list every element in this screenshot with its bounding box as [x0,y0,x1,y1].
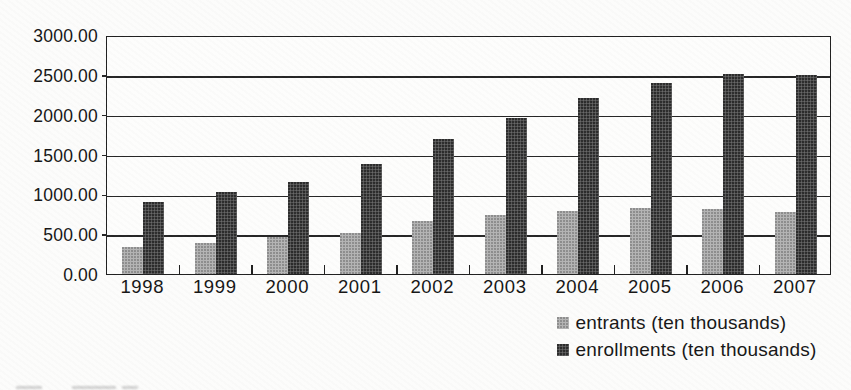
bar-entrants-2002 [412,221,433,274]
x-axis-tick [469,265,471,274]
x-tick-label-2001: 2001 [324,277,397,297]
gridline [107,156,830,158]
gridline [107,116,830,118]
y-tick-label: 3000.00 [0,27,98,45]
y-axis-tick [102,234,107,236]
legend-item: entrants (ten thousands) [557,313,816,333]
cropped-text-artifact [122,386,138,389]
y-tick-label: 2500.00 [0,67,98,85]
y-tick-label: 500.00 [0,226,98,244]
legend-item: enrollments (ten thousands) [557,340,816,360]
legend-label: entrants (ten thousands) [576,313,787,333]
x-axis-tick [396,265,398,274]
cropped-text-artifact [16,386,42,389]
x-tick-label-1999: 1999 [179,277,252,297]
bar-enrollments-1999 [216,192,237,274]
bar-entrants-2000 [267,237,288,274]
bar-entrants-2005 [630,208,651,274]
y-axis-tick [102,195,107,197]
legend-swatch-icon [557,344,569,356]
bar-enrollments-2000 [288,182,309,274]
y-axis-labels: 3000.002500.002000.001500.001000.00500.0… [0,0,100,290]
x-tick-label-2002: 2002 [396,277,469,297]
x-tick-label-2003: 2003 [469,277,542,297]
bar-enrollments-2003 [506,118,527,274]
x-axis-tick [324,265,326,274]
legend: entrants (ten thousands)enrollments (ten… [557,313,816,367]
x-tick-label-1998: 1998 [106,277,179,297]
bar-entrants-1999 [195,243,216,274]
bar-entrants-1998 [122,247,143,274]
bar-entrants-2001 [340,233,361,274]
x-axis-tick [759,265,761,274]
bar-enrollments-2007 [796,75,817,274]
bar-entrants-2007 [775,212,796,274]
x-tick-label-2004: 2004 [541,277,614,297]
x-tick-label-2007: 2007 [759,277,832,297]
bar-enrollments-2002 [433,139,454,274]
bar-enrollments-2006 [723,74,744,274]
x-tick-label-2005: 2005 [614,277,687,297]
x-axis-labels: 1998199920002001200220032004200520062007 [0,277,851,299]
cropped-text-artifact [72,386,116,389]
y-tick-label: 1500.00 [0,147,98,165]
bar-entrants-2003 [485,215,506,274]
bar-enrollments-1998 [143,202,164,274]
bar-enrollments-2004 [578,98,599,274]
y-tick-label: 1000.00 [0,186,98,204]
gridline [107,76,830,78]
y-axis-tick [102,155,107,157]
bar-chart-figure: 3000.002500.002000.001500.001000.00500.0… [0,0,851,390]
y-axis-tick [102,75,107,77]
legend-swatch-icon [557,317,569,329]
bar-enrollments-2001 [361,164,382,274]
y-axis-tick [102,115,107,117]
y-tick-label: 2000.00 [0,107,98,125]
x-axis-tick [686,265,688,274]
x-tick-label-2006: 2006 [686,277,759,297]
x-tick-label-2000: 2000 [251,277,324,297]
legend-label: enrollments (ten thousands) [576,340,817,360]
bar-entrants-2006 [702,209,723,274]
x-axis-tick [614,265,616,274]
x-axis-tick [541,265,543,274]
x-axis-tick [251,265,253,274]
bar-entrants-2004 [557,211,578,274]
plot-area [106,36,831,275]
bar-enrollments-2005 [651,83,672,274]
x-axis-tick [179,265,181,274]
